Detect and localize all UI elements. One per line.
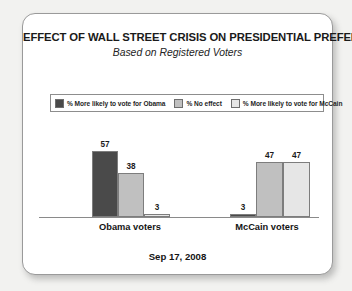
legend-swatch-icon <box>55 99 64 108</box>
chart-footer-date: Sep 17, 2008 <box>23 251 332 262</box>
bar <box>230 214 256 217</box>
bar-value-label: 38 <box>118 162 144 171</box>
x-axis-line <box>39 217 319 218</box>
title-block: EFFECT OF WALL STREET CRISIS ON PRESIDEN… <box>23 31 332 59</box>
chart-legend: % More likely to vote for Obama % No eff… <box>50 94 324 112</box>
legend-item-label: % More likely to vote for McCain <box>243 100 343 107</box>
bar <box>92 151 118 217</box>
legend-item-label: % More likely to vote for Obama <box>67 100 165 107</box>
bar <box>144 214 170 217</box>
legend-item-no-effect: % No effect <box>174 99 221 108</box>
bar-value-label: 47 <box>283 151 310 160</box>
page-title: EFFECT OF WALL STREET CRISIS ON PRESIDEN… <box>23 31 332 44</box>
legend-item-label: % No effect <box>186 100 221 107</box>
category-label-obama-voters: Obama voters <box>70 222 190 232</box>
bar <box>118 173 144 217</box>
legend-item-mccain: % More likely to vote for McCain <box>231 99 343 108</box>
bar-value-label: 3 <box>230 203 256 212</box>
legend-swatch-icon <box>231 99 240 108</box>
chart-card: EFFECT OF WALL STREET CRISIS ON PRESIDEN… <box>22 13 333 275</box>
legend-swatch-icon <box>174 99 183 108</box>
chart-subtitle: Based on Registered Voters <box>23 46 332 59</box>
bar <box>256 162 283 217</box>
bar-value-label: 3 <box>144 203 170 212</box>
bar <box>283 162 310 217</box>
bar-value-label: 47 <box>256 151 283 160</box>
category-label-mccain-voters: McCain voters <box>207 222 327 232</box>
plot-area: 5738334747 <box>39 122 319 218</box>
legend-item-obama: % More likely to vote for Obama <box>55 99 165 108</box>
bar-value-label: 57 <box>92 140 118 149</box>
